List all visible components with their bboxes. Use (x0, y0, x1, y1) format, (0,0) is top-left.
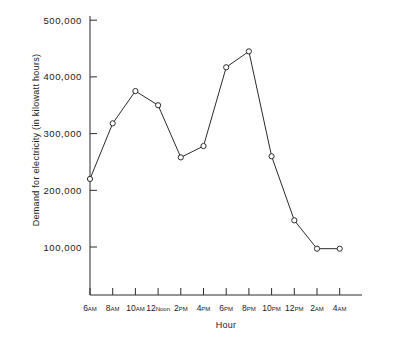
y-tick-label: 400,000 (43, 71, 82, 82)
data-point-marker (224, 65, 229, 70)
x-tick-label: 8AM (106, 303, 120, 313)
y-tick-label: 100,000 (43, 242, 82, 253)
x-tick-label: 12PM (285, 303, 303, 313)
x-tick-label: 4PM (197, 303, 211, 313)
data-point-marker (246, 49, 251, 54)
y-tick-label: 300,000 (43, 128, 82, 139)
line-chart-plot: 100,000200,000300,000400,000500,000 6AM8… (0, 0, 396, 347)
x-tick-label: 8PM (242, 303, 256, 313)
data-point-marker (292, 218, 297, 223)
x-tick-label: 2AM (310, 303, 324, 313)
y-tick-label: 500,000 (43, 15, 82, 26)
data-point-marker (337, 246, 342, 251)
chart-page: Demand for electricity (in kilowatt hour… (0, 0, 396, 347)
x-tick-label: 12Noon (146, 303, 170, 313)
x-tick-label: 10AM (126, 303, 144, 313)
data-point-marker (178, 155, 183, 160)
x-axis-tick-labels: 6AM8AM10AM12Noon2PM4PM6PM8PM10PM12PM2AM4… (83, 303, 346, 313)
x-tick-label: 6PM (219, 303, 233, 313)
y-axis-tick-labels: 100,000200,000300,000400,000500,000 (43, 15, 82, 253)
x-tick-label: 10PM (262, 303, 280, 313)
demand-series-line (90, 51, 340, 248)
data-point-marker (87, 176, 92, 181)
x-tick-label: 4AM (333, 303, 347, 313)
data-point-markers (87, 49, 342, 252)
data-point-marker (156, 103, 161, 108)
y-axis-tick-marks (90, 20, 97, 247)
data-point-marker (133, 88, 138, 93)
data-point-marker (110, 121, 115, 126)
data-point-marker (269, 154, 274, 159)
data-point-marker (314, 246, 319, 251)
x-tick-label: 2PM (174, 303, 188, 313)
x-tick-label: 6AM (83, 303, 97, 313)
x-axis-title: Hour (90, 320, 362, 330)
x-axis-tick-marks (90, 288, 340, 295)
y-tick-label: 200,000 (43, 185, 82, 196)
data-point-marker (201, 143, 206, 148)
